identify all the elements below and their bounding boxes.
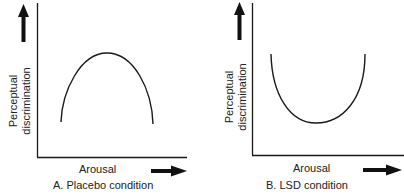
panel-a-axes [37,3,187,158]
panel-b-right-arrow-icon [363,165,402,176]
y-label-line2: discrimination [236,52,249,142]
panel-b-axes [252,3,404,156]
panel-a-caption: A. Placebo condition [53,179,153,191]
panel-a-x-axis-label: Arousal [79,163,116,175]
panel-a-right-arrow-icon [151,166,187,177]
panel-a-inverted-u-curve [61,53,153,124]
y-label-line1: Perceptual [223,52,236,142]
panel-b-u-curve [271,54,365,123]
panel-b-caption: B. LSD condition [266,179,348,191]
panel-a-up-arrow-icon [18,4,29,42]
y-label-line2: discrimination [20,56,33,146]
panel-b-x-axis-label: Arousal [293,162,330,174]
panel-b-up-arrow-icon [234,2,245,40]
panel-b-y-axis-label: Perceptual discrimination [223,52,249,142]
panel-a-y-axis-label: Perceptual discrimination [7,56,33,146]
y-label-line1: Perceptual [7,56,20,146]
diagram-canvas [0,0,404,196]
